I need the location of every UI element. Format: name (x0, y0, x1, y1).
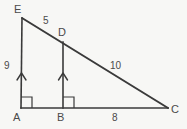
length-label-dc: 10 (110, 61, 121, 71)
vertex-label-d: D (58, 27, 66, 38)
vertex-label-c: C (171, 104, 179, 115)
right-angle-mark-b (63, 97, 74, 108)
geometry-canvas (0, 0, 187, 129)
segment-ec (22, 18, 168, 108)
vertex-label-b: B (57, 112, 64, 123)
length-label-bc: 8 (112, 113, 118, 123)
vertex-label-a: A (13, 112, 20, 123)
length-label-ae: 9 (4, 61, 10, 71)
right-angle-mark-a (21, 97, 32, 108)
vertex-label-e: E (14, 4, 21, 15)
segment-ae (21, 18, 22, 108)
length-label-ed: 5 (43, 16, 49, 26)
geometry-figure: E D A B C 9 5 10 8 (0, 0, 187, 129)
